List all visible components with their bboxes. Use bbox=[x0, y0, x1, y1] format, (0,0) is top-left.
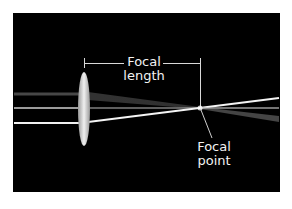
lens bbox=[78, 72, 90, 146]
focal-length-label-line1: Focal bbox=[120, 55, 168, 69]
focal-point-label-line1: Focal bbox=[192, 140, 236, 154]
focal-length-label-line2: length bbox=[120, 69, 168, 83]
focal-point-label: Focal point bbox=[192, 140, 236, 168]
focal-point-leader bbox=[201, 110, 212, 138]
focal-point-marker bbox=[198, 106, 203, 111]
focal-point-label-line2: point bbox=[192, 154, 236, 168]
optics-diagram bbox=[0, 0, 292, 209]
incoming-rays bbox=[14, 94, 80, 123]
focal-length-label: Focal length bbox=[120, 55, 168, 83]
refracted-rays bbox=[88, 92, 279, 122]
